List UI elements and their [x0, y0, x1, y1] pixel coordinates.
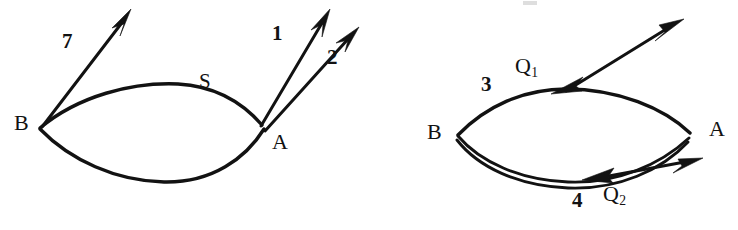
left-ray-label-2: 2: [327, 47, 338, 68]
right-path-label-q1: Q1: [515, 55, 538, 77]
left-ray-1-line: [261, 23, 322, 126]
right-vertex-label-a: A: [709, 118, 725, 140]
scan-artifact-speck: [523, 1, 537, 5]
right-lower-arc-inner: [458, 136, 689, 182]
right-upper-arc-3: [458, 89, 690, 135]
left-lower-arc: [40, 129, 264, 182]
right-path-label-q1-subscript: 1: [531, 65, 538, 80]
left-vertex-label-b: B: [14, 112, 29, 134]
right-ray-label-4: 4: [572, 190, 583, 211]
right-path-label-q1-base: Q: [515, 53, 531, 78]
right-q1-arrow-line: [566, 28, 668, 91]
left-path-label-s: S: [199, 71, 211, 92]
left-diagram-group: [40, 9, 359, 182]
right-ray-label-3: 3: [481, 74, 492, 95]
figure-root: B A S 7 1 2 B A Q1 Q2 3 4: [0, 0, 738, 230]
right-path-label-q2: Q2: [603, 183, 626, 205]
right-q1-arrowhead-inner: [551, 77, 583, 94]
right-vertex-label-b: B: [427, 121, 442, 143]
figure-drawing-canvas: [0, 0, 738, 230]
left-ray-1-arrowhead: [311, 9, 330, 37]
left-ray-label-7: 7: [62, 31, 73, 52]
left-upper-arc-S: [40, 84, 262, 128]
right-path-label-q2-subscript: 2: [619, 193, 626, 208]
left-vertex-label-a: A: [272, 131, 288, 153]
right-q2-arrowhead-outer: [673, 158, 703, 173]
right-q1-arrowhead-outer: [655, 19, 684, 41]
left-ray-label-1: 1: [272, 23, 283, 44]
right-diagram-group: [457, 19, 703, 188]
left-ray-7-line: [42, 20, 124, 127]
right-path-label-q2-base: Q: [603, 181, 619, 206]
